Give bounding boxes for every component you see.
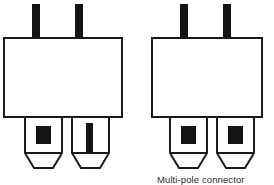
- left-connector-pin-right-slot-contact: [86, 123, 93, 152]
- right-connector-top-terminal-right: [223, 4, 231, 40]
- right-connector-pin-right-square-contact: [228, 126, 243, 144]
- right-connector-pin-right: [217, 116, 254, 168]
- left-connector-body: [4, 38, 122, 117]
- left-connector-top-terminal-right: [75, 4, 83, 40]
- connector-diagram: Multi-pole connector: [0, 0, 274, 185]
- left-connector-pin-left: [25, 116, 62, 168]
- left-connector-top-terminal-left: [32, 4, 40, 40]
- right-connector-pin-left-square-contact: [181, 126, 196, 144]
- connector-figure: [0, 0, 274, 185]
- right-connector-body: [152, 38, 262, 117]
- right-connector-top-terminal-left: [180, 4, 188, 40]
- left-connector-pin-right: [72, 116, 109, 168]
- right-connector-pin-left: [170, 116, 207, 168]
- left-connector-pin-left-square-contact: [36, 126, 51, 144]
